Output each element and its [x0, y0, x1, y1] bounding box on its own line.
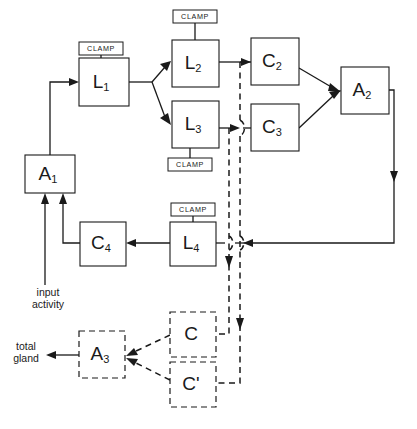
clamp-l2-label: CLAMP	[181, 12, 209, 21]
node-A1-sub: 1	[51, 173, 57, 185]
node-C3-base: C	[262, 116, 276, 137]
node-L2-sub: 2	[195, 62, 201, 74]
node-C2-sub: 2	[276, 60, 282, 72]
arrowhead-fan-to-l3	[160, 113, 171, 125]
clamp-l3-label: CLAMP	[176, 160, 204, 169]
arrowhead-cprime-to-a3	[126, 358, 138, 366]
node-C-prime[interactable]: C'	[170, 362, 216, 407]
clamp-l1-label: CLAMP	[87, 44, 115, 53]
edge-c3-to-a2	[299, 96, 333, 128]
arrowhead-c-to-a3	[126, 348, 138, 356]
node-A1-base: A	[39, 163, 52, 184]
node-L3-sub: 3	[195, 123, 201, 135]
edge-c2-to-a2	[299, 68, 333, 88]
node-L4[interactable]: L4	[170, 222, 216, 266]
node-C4-base: C	[91, 232, 105, 253]
node-L3[interactable]: L3	[172, 101, 219, 148]
node-L4-sub: 4	[193, 242, 199, 254]
node-C3[interactable]: C3	[251, 104, 299, 151]
node-C-prime-base: C'	[182, 373, 199, 394]
edge-c-to-a3	[134, 335, 170, 352]
node-A3-sub: 3	[103, 353, 109, 365]
clamp-l4[interactable]: CLAMP	[171, 203, 215, 216]
label-input-activity-line1: input	[37, 286, 60, 298]
node-L1-base: L	[93, 71, 104, 92]
edge-text-labels: input activity total gland	[13, 286, 65, 364]
edge-c4-to-a1	[63, 202, 80, 243]
label-total-gland-line2: gland	[13, 352, 39, 364]
node-A2-sub: 2	[365, 89, 371, 101]
clamp-l4-label: CLAMP	[179, 205, 207, 214]
edge-dashed-left-vertical	[216, 128, 229, 334]
node-C3-sub: 3	[276, 126, 282, 138]
node-L2-base: L	[185, 52, 196, 73]
edge-cprime-to-a3	[134, 362, 170, 380]
label-total-gland: total gland	[13, 340, 39, 364]
node-L4-base: L	[183, 232, 194, 253]
arrowhead-a1-to-l1	[69, 78, 79, 86]
diagram-canvas: A1 L1 L2 L3	[0, 0, 417, 429]
node-A3[interactable]: A3	[79, 331, 125, 378]
arrowhead-dashed-right-down	[236, 318, 244, 330]
node-C2[interactable]: C2	[251, 38, 299, 85]
arrowhead-input-to-a1	[41, 193, 49, 204]
clamp-l1[interactable]: CLAMP	[79, 42, 123, 55]
node-A2[interactable]: A2	[341, 67, 389, 114]
node-C-base: C	[184, 323, 198, 344]
arrowhead-a3-to-total-gland	[46, 351, 56, 359]
node-C2-base: C	[262, 50, 276, 71]
node-A2-base: A	[353, 79, 366, 100]
edge-a1-to-l1	[50, 82, 71, 155]
edge-fan-to-l2	[152, 67, 165, 82]
node-C[interactable]: C	[170, 312, 216, 357]
node-L3-base: L	[185, 113, 196, 134]
flow-diagram-svg: A1 L1 L2 L3	[0, 0, 417, 429]
node-A1[interactable]: A1	[25, 155, 75, 193]
label-input-activity: input activity	[32, 286, 65, 310]
node-A3-base: A	[91, 343, 104, 364]
node-L2[interactable]: L2	[172, 40, 219, 87]
node-L1-sub: 1	[103, 81, 109, 93]
arrowhead-fan-to-l2	[160, 61, 171, 71]
clamp-l2[interactable]: CLAMP	[173, 10, 217, 23]
edge-fan-to-l3	[152, 82, 165, 117]
arrowhead-l4-to-c4	[126, 239, 136, 247]
node-L1[interactable]: L1	[79, 58, 129, 106]
label-total-gland-line1: total	[16, 340, 36, 352]
node-C4[interactable]: C4	[80, 222, 126, 266]
node-C4-sub: 4	[105, 242, 111, 254]
arrowhead-c4-to-a1	[59, 193, 67, 204]
arrowhead-a2-loop-mid	[390, 171, 398, 182]
label-input-activity-line2: activity	[32, 298, 65, 310]
arrowhead-l3-to-c3	[230, 124, 240, 132]
arrowhead-dashed-left-down	[225, 256, 233, 268]
clamp-l3[interactable]: CLAMP	[168, 158, 212, 171]
